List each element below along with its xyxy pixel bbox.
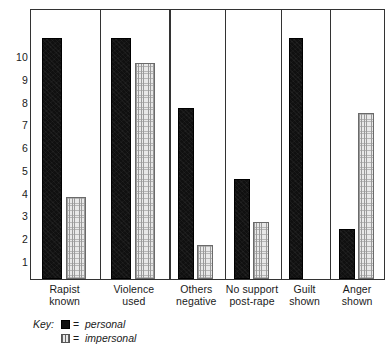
legend-row-impersonal: =impersonal: [33, 332, 283, 346]
x-axis-label-line: shown: [307, 295, 389, 307]
y-axis-tick-label: 10: [2, 52, 28, 63]
chart-panel: [330, 10, 386, 279]
y-axis-tick-label: 6: [2, 143, 28, 154]
legend-swatch-impersonal-icon: [61, 334, 70, 343]
y-axis-tick-label: 9: [2, 75, 28, 86]
y-axis-tick-label: 5: [2, 166, 28, 177]
bar-personal: [289, 38, 303, 279]
chart-panel: [169, 10, 225, 279]
plot-area: [30, 9, 385, 280]
y-axis-tick-label: 8: [2, 98, 28, 109]
y-axis-tick-label: 3: [2, 211, 28, 222]
legend-equals-personal: =: [73, 318, 85, 332]
x-axis-label: Angershown: [307, 283, 389, 308]
legend-row-personal: Key:=personal: [33, 318, 283, 332]
chart-legend: Key:=personal =impersonal: [33, 318, 283, 348]
x-axis-labels: RapistknownViolenceusedOthersnegativeNo …: [0, 283, 389, 317]
y-axis-tick-label: 4: [2, 189, 28, 200]
chart-panel: [281, 10, 330, 279]
bar-personal: [234, 179, 250, 279]
chart-panel: [225, 10, 281, 279]
bar-personal: [339, 229, 355, 279]
legend-key-label: Key:: [33, 318, 61, 332]
legend-equals-impersonal: =: [73, 332, 85, 346]
legend-label-impersonal: impersonal: [85, 332, 136, 344]
y-axis-tick-label: 7: [2, 120, 28, 131]
bar-chart: 10987654321 RapistknownViolenceusedOther…: [0, 0, 389, 351]
bar-personal: [178, 108, 194, 279]
bar-impersonal: [253, 222, 269, 279]
bar-personal: [111, 38, 131, 279]
bar-impersonal: [358, 113, 374, 279]
bar-personal: [42, 38, 62, 279]
x-axis-label-line: Anger: [307, 283, 389, 295]
chart-panel: [100, 10, 169, 279]
bar-impersonal: [135, 63, 155, 279]
legend-swatch-personal-icon: [61, 320, 70, 329]
y-axis-tick-label: 2: [2, 234, 28, 245]
bar-impersonal: [66, 197, 86, 279]
bar-impersonal: [197, 245, 213, 279]
y-axis-tick-label: 1: [2, 257, 28, 268]
chart-panel: [31, 10, 100, 279]
legend-label-personal: personal: [85, 318, 125, 330]
